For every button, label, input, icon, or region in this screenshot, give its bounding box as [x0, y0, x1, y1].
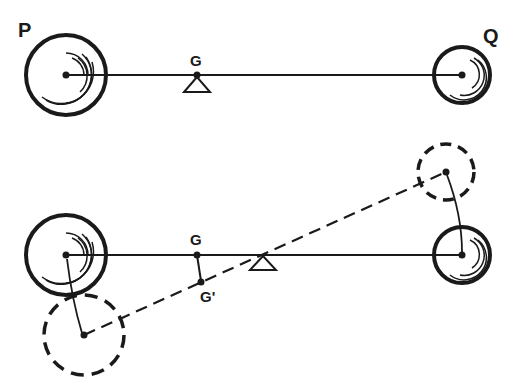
mass-P-displaced	[44, 259, 124, 375]
label-G-prime: G'	[200, 288, 215, 305]
mass-Q-displaced	[418, 144, 474, 252]
balance-diagram: P Q G	[0, 0, 521, 390]
G-prime-point	[198, 279, 205, 286]
mass-P-bottom	[26, 215, 106, 295]
label-Q: Q	[483, 25, 499, 47]
label-G-top: G	[190, 52, 202, 69]
pivot-bottom-icon	[250, 256, 276, 270]
G-to-G-prime-link	[197, 255, 201, 281]
mass-P-top	[26, 35, 106, 115]
label-G-bottom: G	[190, 231, 202, 248]
tilted-beam-dashed	[84, 172, 446, 335]
bottom-figure	[26, 144, 490, 375]
top-figure	[26, 35, 490, 115]
label-P: P	[18, 19, 31, 41]
pivot-top-icon	[184, 77, 210, 92]
